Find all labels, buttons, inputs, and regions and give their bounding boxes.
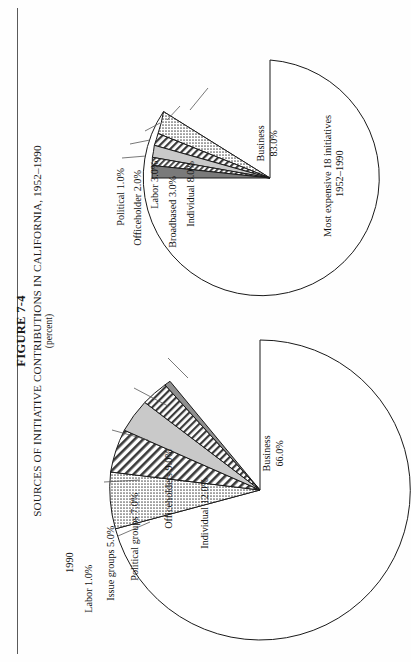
label-business-value: 83.0% [267, 130, 278, 156]
pie-historic-svg [120, 28, 405, 313]
label-business: Business 83.0% [255, 125, 281, 161]
label-labor: Labor 3.0% [149, 161, 162, 209]
label-issue-groups-1990: Issue groups 5.0% [105, 526, 118, 601]
label-business-1990-name: Business [261, 435, 272, 471]
pie-1990-svg [60, 300, 405, 656]
figure-subtitle: (percent) [44, 21, 54, 641]
label-business-name: Business [255, 125, 266, 161]
figure-title: SOURCES OF INITIATIVE CONTRIBUTIONS IN C… [31, 21, 43, 641]
pie-1990-title: 1990 [63, 552, 76, 573]
figure-page: FIGURE 7-4 SOURCES OF INITIATIVE CONTRIB… [0, 0, 411, 662]
label-business-1990: Business 66.0% [261, 435, 287, 471]
pie-chart-1990: 1990 Labor 1.0% Issue groups 5.0% Politi… [60, 300, 405, 656]
label-individual: Individual 8.0% [185, 161, 198, 227]
label-political-groups-1990: Political groups 7.0% [129, 493, 142, 581]
label-officeholders-1990: Officeholders 9.0% [163, 449, 176, 529]
label-political: Political 1.0% [115, 168, 128, 226]
label-broadbased: Broadbased 3.0% [167, 176, 180, 248]
label-officeholder: Officeholder 2.0% [132, 170, 145, 246]
page-gutter-rule [17, 8, 18, 654]
label-labor-1990: Labor 1.0% [83, 565, 96, 613]
label-business-1990-value: 66.0% [273, 440, 284, 466]
pie-historic-subtitle: 1952–1990 [333, 150, 346, 197]
figure-caption: FIGURE 7-4 SOURCES OF INITIATIVE CONTRIB… [14, 21, 58, 641]
label-individual-1990: Individual 12.0% [199, 478, 212, 549]
pie-chart-historic: Most expensive 18 initiatives 1952–1990 … [120, 28, 405, 308]
